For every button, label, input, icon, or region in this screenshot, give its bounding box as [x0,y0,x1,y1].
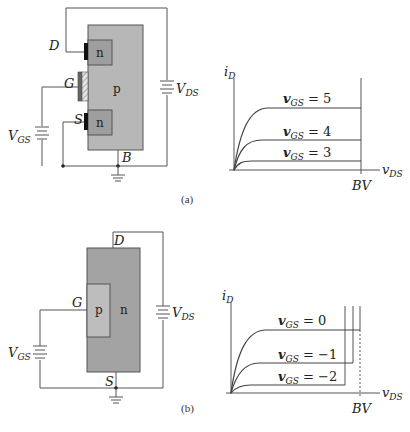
gate-label: G [64,76,74,91]
jfet-output-graph: iD vDS BV vGS = 0 vGS = −1 vGS = −2 [222,288,403,416]
vgs-battery-icon [35,127,49,139]
curve-vgs-minus2 [231,385,345,393]
id-axis-label: iD [224,64,235,81]
curve-label-0: vGS = 0 [278,313,326,330]
vgs-label: VGS [8,128,31,145]
source-region-label: n [96,116,104,130]
source-label: S [74,112,83,127]
figure-canvas: D G S B n n p VGS VDS (a) iD vDS BV vGS … [0,0,410,432]
caption-a: (a) [181,193,194,206]
substrate-label: p [113,82,121,96]
jfet-circuit: D G S p n VGS VDS [8,232,195,403]
drain-contact [84,43,88,60]
vds-label: VDS [172,305,195,322]
mosfet-output-graph: iD vDS BV vGS = 5 vGS = 4 vGS = 3 [224,64,403,193]
curve-label-5: vGS = 5 [283,91,331,108]
ground-icon [111,166,125,181]
channel-label: n [120,303,128,317]
vds-axis-label: vDS [382,385,403,402]
ground-icon [109,388,123,403]
vgs-battery-icon [33,346,47,358]
bv-label: BV [351,178,373,193]
gate-metal [78,72,82,101]
curve-label-3: vGS = 3 [283,145,331,162]
source-label: S [105,374,114,389]
mosfet-circuit: D G S B n n p VGS VDS [8,8,199,181]
caption-b: (b) [181,402,194,415]
drain-label: D [113,233,125,248]
curve-label-minus2: vGS = −2 [278,369,337,386]
curve-label-4: vGS = 4 [283,124,331,141]
vds-axis-label: vDS [382,162,403,179]
vgs-label: VGS [8,345,31,362]
bv-label: BV [351,401,373,416]
vds-battery-icon [160,81,174,93]
drain-label: D [48,38,60,53]
gate-wire [42,87,78,126]
source-wire [63,122,84,166]
drain-region-label: n [96,46,104,60]
vds-battery-icon [156,306,170,318]
gate-oxide [82,72,88,101]
curve-label-minus1: vGS = −1 [278,347,337,364]
gate-wire [40,310,87,346]
junction-dot [61,164,65,168]
gate-region-label: p [95,303,103,317]
gate-label: G [72,295,82,310]
curve-vgs-3 [234,161,361,170]
body-label: B [121,150,132,165]
vds-label: VDS [176,81,199,98]
id-axis-label: iD [222,288,233,305]
source-contact [84,113,88,130]
figure: D G S B n n p VGS VDS (a) iD vDS BV vGS … [0,0,410,432]
